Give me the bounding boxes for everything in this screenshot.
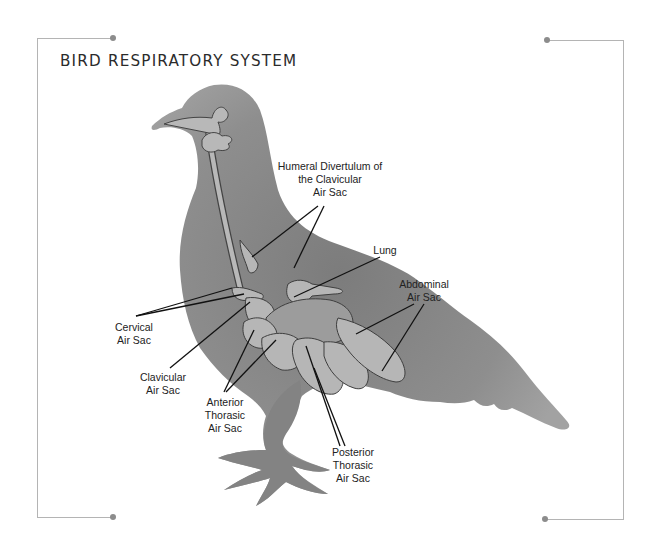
label-line: Anterior	[200, 396, 250, 409]
label-line: Humeral Divertulum of	[276, 160, 384, 173]
label-line: Clavicular	[138, 371, 188, 384]
label-posterior-thoracic-air-sac: Posterior Thorasic Air Sac	[328, 446, 378, 485]
label-line: Air Sac	[138, 384, 188, 397]
label-abdominal-air-sac: Abdominal Air Sac	[398, 278, 450, 304]
label-line: Abdominal	[398, 278, 450, 291]
label-line: Air Sac	[328, 472, 378, 485]
label-anterior-thoracic-air-sac: Anterior Thorasic Air Sac	[200, 396, 250, 435]
label-line: Posterior	[328, 446, 378, 459]
label-line: Air Sac	[398, 291, 450, 304]
label-line: Air Sac	[276, 186, 384, 199]
label-line: Thorasic	[200, 409, 250, 422]
label-line: Lung	[370, 244, 400, 257]
label-line: Air Sac	[112, 334, 156, 347]
label-line: the Clavicular	[276, 173, 384, 186]
label-line: Thorasic	[328, 459, 378, 472]
label-line: Air Sac	[200, 422, 250, 435]
label-lung: Lung	[370, 244, 400, 257]
label-cervical-air-sac: Cervical Air Sac	[112, 321, 156, 347]
label-humeral-diverticulum: Humeral Divertulum of the Clavicular Air…	[276, 160, 384, 199]
label-line: Cervical	[112, 321, 156, 334]
label-clavicular-air-sac: Clavicular Air Sac	[138, 371, 188, 397]
